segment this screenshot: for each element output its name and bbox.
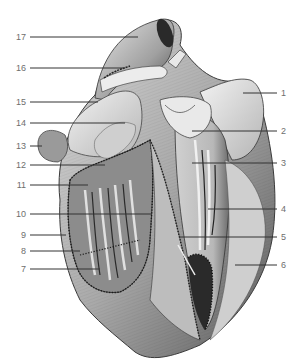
label-14: 14 — [10, 118, 26, 128]
label-11: 11 — [10, 180, 26, 190]
label-4: 4 — [281, 204, 286, 214]
label-17: 17 — [10, 32, 26, 42]
label-3: 3 — [281, 158, 286, 168]
label-2: 2 — [281, 126, 286, 136]
auricle-left — [38, 130, 68, 162]
label-7: 7 — [10, 264, 26, 274]
label-1: 1 — [281, 88, 286, 98]
atrium-opened — [68, 91, 142, 158]
label-8: 8 — [10, 246, 26, 256]
label-13: 13 — [10, 141, 26, 151]
label-15: 15 — [10, 97, 26, 107]
label-10: 10 — [10, 209, 26, 219]
label-5: 5 — [281, 232, 286, 242]
label-16: 16 — [10, 63, 26, 73]
label-6: 6 — [281, 260, 286, 270]
label-9: 9 — [10, 230, 26, 240]
heart-illustration — [0, 0, 300, 364]
label-12: 12 — [10, 160, 26, 170]
